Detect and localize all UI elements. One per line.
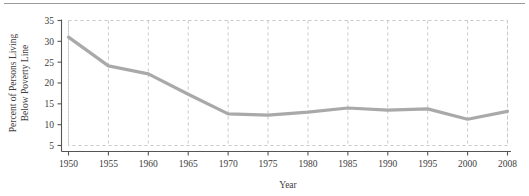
x-tick-label: 1985 <box>338 159 357 169</box>
poverty-line-chart-figure: 5101520253035 19501955196019651970197519… <box>0 0 529 196</box>
tick-marks <box>58 21 508 156</box>
y-tick-label: 35 <box>45 16 55 26</box>
x-tick-label: 1970 <box>219 159 238 169</box>
y-tick-label: 15 <box>45 99 55 109</box>
plot-box <box>69 21 508 146</box>
y-tick-labels: 5101520253035 <box>45 16 55 151</box>
x-tick-label: 1990 <box>378 159 397 169</box>
plot-box-border <box>69 21 508 146</box>
data-series-layer <box>69 37 508 119</box>
line-chart: 5101520253035 19501955196019651970197519… <box>0 0 529 196</box>
x-tick-label: 2000 <box>458 159 477 169</box>
y-tick-label: 20 <box>45 78 55 88</box>
x-tick-label: 1950 <box>59 159 78 169</box>
grid-layer <box>69 21 508 146</box>
series-line <box>69 37 508 119</box>
y-tick-label: 5 <box>49 141 54 151</box>
x-tick-label: 2008 <box>498 159 517 169</box>
x-tick-labels: 1950195519601965197019751980198519901995… <box>59 159 517 169</box>
x-tick-label: 1980 <box>298 159 317 169</box>
y-tick-label: 10 <box>45 120 55 130</box>
y-axis-title-line: Below Poverty Line <box>20 45 30 122</box>
x-tick-label: 1960 <box>139 159 158 169</box>
x-tick-label: 1955 <box>99 159 118 169</box>
x-tick-label: 1965 <box>179 159 198 169</box>
axis-lines <box>62 20 512 152</box>
y-tick-label: 25 <box>45 58 55 68</box>
y-axis-title-line: Percent of Persons Living <box>8 34 18 133</box>
x-tick-label: 1995 <box>418 159 437 169</box>
x-axis-title: Year <box>279 180 297 190</box>
y-tick-label: 30 <box>45 37 55 47</box>
x-tick-label: 1975 <box>259 159 278 169</box>
